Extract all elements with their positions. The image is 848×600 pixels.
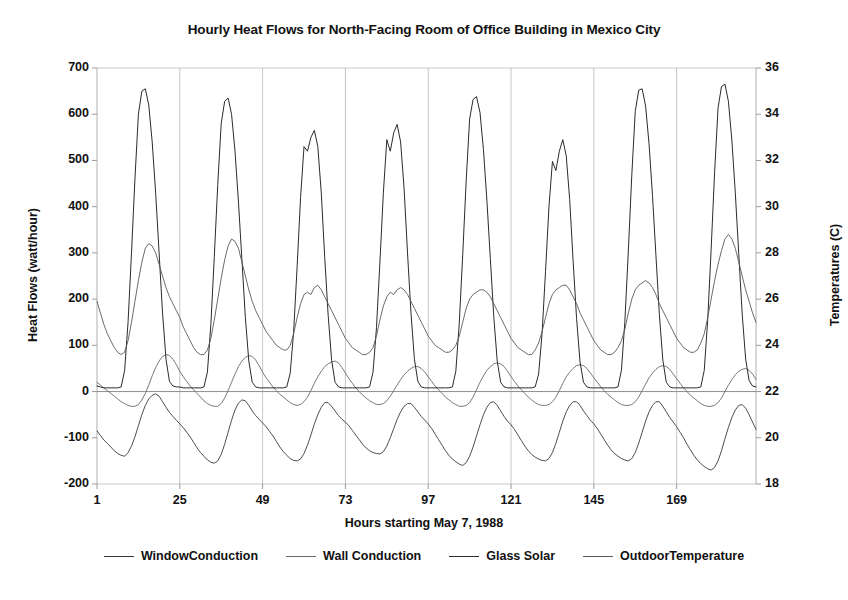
y-axis-left-tick-label: 500 bbox=[31, 152, 89, 166]
legend-line-icon bbox=[286, 556, 316, 557]
y-axis-right-tick-label: 26 bbox=[765, 291, 805, 305]
y-axis-right-tick-label: 28 bbox=[765, 245, 805, 259]
y-axis-left-tick-label: 100 bbox=[31, 337, 89, 351]
legend-item-label: Glass Solar bbox=[486, 549, 555, 563]
chart-legend: WindowConductionWall ConductionGlass Sol… bbox=[0, 549, 848, 563]
y-axis-right-tick-label: 18 bbox=[765, 476, 805, 490]
legend-item[interactable]: Glass Solar bbox=[449, 549, 555, 563]
legend-line-icon bbox=[104, 556, 134, 557]
legend-item-label: Wall Conduction bbox=[323, 549, 421, 563]
chart-figure: Hourly Heat Flows for North-Facing Room … bbox=[0, 0, 848, 600]
plot-area bbox=[0, 0, 848, 600]
legend-item-label: WindowConduction bbox=[141, 549, 258, 563]
legend-item[interactable]: Wall Conduction bbox=[286, 549, 421, 563]
y-axis-right-tick-label: 34 bbox=[765, 106, 805, 120]
x-axis-tick-label: 1 bbox=[72, 493, 122, 507]
legend-item-label: OutdoorTemperature bbox=[620, 549, 744, 563]
legend-line-icon bbox=[583, 556, 613, 557]
x-axis-tick-label: 25 bbox=[155, 493, 205, 507]
x-axis-tick-label: 121 bbox=[486, 493, 536, 507]
y-axis-left-tick-label: 700 bbox=[31, 60, 89, 74]
legend-line-icon bbox=[449, 556, 479, 557]
y-axis-right-tick-label: 20 bbox=[765, 430, 805, 444]
x-axis-tick-label: 169 bbox=[652, 493, 702, 507]
y-axis-right-tick-label: 24 bbox=[765, 337, 805, 351]
y-axis-left-tick-label: 600 bbox=[31, 106, 89, 120]
y-axis-right-tick-label: 22 bbox=[765, 384, 805, 398]
y-axis-left-tick-label: -200 bbox=[31, 476, 89, 490]
legend-item[interactable]: WindowConduction bbox=[104, 549, 258, 563]
y-axis-right-tick-label: 32 bbox=[765, 152, 805, 166]
x-axis-tick-label: 97 bbox=[403, 493, 453, 507]
y-axis-right-tick-label: 36 bbox=[765, 60, 805, 74]
y-axis-right-tick-label: 30 bbox=[765, 199, 805, 213]
y-axis-left-tick-label: 0 bbox=[31, 384, 89, 398]
x-axis-tick-label: 145 bbox=[569, 493, 619, 507]
y-axis-left-tick-label: 400 bbox=[31, 199, 89, 213]
y-axis-left-tick-label: 200 bbox=[31, 291, 89, 305]
legend-item[interactable]: OutdoorTemperature bbox=[583, 549, 744, 563]
x-axis-tick-label: 49 bbox=[238, 493, 288, 507]
y-axis-left-tick-label: -100 bbox=[31, 430, 89, 444]
y-axis-left-tick-label: 300 bbox=[31, 245, 89, 259]
x-axis-tick-label: 73 bbox=[320, 493, 370, 507]
